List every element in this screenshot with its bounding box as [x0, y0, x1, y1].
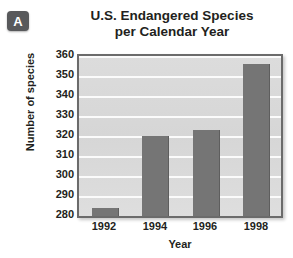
x-axis-tick-label: 1992 [81, 220, 127, 233]
gridline [79, 216, 281, 218]
bar [193, 130, 220, 216]
bar-series [79, 56, 281, 216]
y-axis-tick-label: 330 [44, 109, 74, 120]
y-axis-tick-label: 310 [44, 149, 74, 160]
chart-title: U.S. Endangered Species per Calendar Yea… [58, 8, 286, 40]
bar [92, 208, 119, 216]
bar [243, 64, 270, 216]
y-axis-tick-label: 280 [44, 209, 74, 220]
chart-title-line-2: per Calendar Year [58, 24, 286, 40]
y-axis-tick-label: 290 [44, 189, 74, 200]
y-axis-tick-label: 300 [44, 169, 74, 180]
panel-label-badge: A [7, 11, 29, 31]
x-axis-title: Year [77, 238, 283, 250]
y-axis-tick-label: 340 [44, 89, 74, 100]
bar [142, 136, 169, 216]
y-axis-title: Number of species [24, 37, 36, 167]
x-axis-tick-label: 1994 [132, 220, 178, 233]
y-axis-tick-label: 320 [44, 129, 74, 140]
x-axis-tick-labels: 1992199419961998 [77, 220, 283, 236]
x-axis-tick-label: 1998 [233, 220, 279, 233]
panel-label-letter: A [13, 15, 23, 28]
chart-title-line-1: U.S. Endangered Species [58, 8, 286, 24]
y-axis-tick-label: 350 [44, 69, 74, 80]
x-axis-tick-label: 1996 [182, 220, 228, 233]
y-axis-tick-labels: 360350340330320310300290280 [44, 50, 74, 218]
y-axis-tick-label: 360 [44, 49, 74, 60]
plot-area [77, 54, 283, 218]
